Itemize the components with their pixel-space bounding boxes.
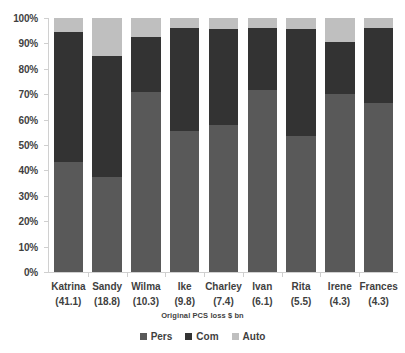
x-axis-title: Original PCS loss $ bn <box>0 311 405 320</box>
bar-segment-auto[interactable] <box>170 18 199 28</box>
stacked-bar-chart: 0%10%20%30%40%50%60%70%80%90%100% Katrin… <box>0 0 405 353</box>
x-axis-tick-mark <box>282 272 283 277</box>
y-axis-tick-label: 100% <box>13 13 38 24</box>
chart-legend: PersComAuto <box>0 331 405 342</box>
category-name: Charley <box>204 279 243 294</box>
bar-segment-auto[interactable] <box>131 18 160 37</box>
stacked-bar[interactable] <box>170 18 199 272</box>
bar-segment-pers[interactable] <box>364 103 393 272</box>
x-axis-category-label: Irene(4.3) <box>320 279 359 309</box>
bar-segment-auto[interactable] <box>286 18 315 29</box>
stacked-bar[interactable] <box>364 18 393 272</box>
category-value: (4.3) <box>320 294 359 309</box>
y-axis-tick-label: 80% <box>19 63 38 74</box>
bar-slot <box>49 18 88 272</box>
bar-slot <box>127 18 166 272</box>
bar-slot <box>88 18 127 272</box>
category-value: (5.5) <box>282 294 321 309</box>
x-axis-tick-mark <box>243 272 244 277</box>
category-name: Sandy <box>88 279 127 294</box>
x-axis-category-label: Frances(4.3) <box>359 279 398 309</box>
x-axis-category-label: Rita(5.5) <box>282 279 321 309</box>
legend-label: Pers <box>151 331 173 342</box>
category-name: Wilma <box>127 279 166 294</box>
y-axis-tick-label: 0% <box>24 267 38 278</box>
bar-segment-auto[interactable] <box>92 18 121 56</box>
legend-swatch-icon <box>185 333 192 340</box>
y-axis-tick-label: 40% <box>19 165 38 176</box>
x-axis-category-label: Ivan(6.1) <box>243 279 282 309</box>
x-axis-tick-mark <box>127 272 128 277</box>
x-axis-line <box>48 272 398 273</box>
bar-slot <box>359 18 398 272</box>
y-axis-tick-label: 60% <box>19 114 38 125</box>
bar-segment-auto[interactable] <box>364 18 393 28</box>
bar-segment-com[interactable] <box>286 29 315 136</box>
bar-segment-com[interactable] <box>170 28 199 131</box>
bar-segment-pers[interactable] <box>286 136 315 272</box>
bar-segment-com[interactable] <box>131 37 160 92</box>
bar-segment-pers[interactable] <box>170 131 199 272</box>
x-axis-category-label: Wilma(10.3) <box>127 279 166 309</box>
x-axis-tick-mark <box>88 272 89 277</box>
legend-item-auto[interactable]: Auto <box>232 331 266 342</box>
bar-segment-auto[interactable] <box>325 18 354 42</box>
bar-segment-com[interactable] <box>92 56 121 177</box>
y-axis-tick-label: 50% <box>19 140 38 151</box>
category-name: Rita <box>282 279 321 294</box>
plot-area: 0%10%20%30%40%50%60%70%80%90%100% Katrin… <box>0 0 405 286</box>
legend-item-pers[interactable]: Pers <box>140 331 173 342</box>
bar-segment-pers[interactable] <box>54 162 83 272</box>
category-name: Katrina <box>49 279 88 294</box>
bar-segment-pers[interactable] <box>248 90 277 272</box>
legend-item-com[interactable]: Com <box>185 331 218 342</box>
category-name: Ike <box>165 279 204 294</box>
bar-segment-com[interactable] <box>248 28 277 90</box>
category-value: (4.3) <box>359 294 398 309</box>
category-value: (18.8) <box>88 294 127 309</box>
stacked-bar[interactable] <box>248 18 277 272</box>
y-axis-tick-labels: 0%10%20%30%40%50%60%70%80%90%100% <box>0 12 44 272</box>
bar-slot <box>320 18 359 272</box>
x-axis-tick-mark <box>320 272 321 277</box>
bar-segment-com[interactable] <box>54 32 83 162</box>
stacked-bar[interactable] <box>131 18 160 272</box>
category-value: (9.8) <box>165 294 204 309</box>
stacked-bar[interactable] <box>325 18 354 272</box>
y-axis-tick-label: 20% <box>19 216 38 227</box>
stacked-bar[interactable] <box>209 18 238 272</box>
x-axis-category-label: Katrina(41.1) <box>49 279 88 309</box>
x-axis-tick-mark <box>204 272 205 277</box>
category-value: (10.3) <box>127 294 166 309</box>
bar-segment-pers[interactable] <box>131 92 160 272</box>
bar-segment-auto[interactable] <box>248 18 277 28</box>
x-axis-category-label: Ike(9.8) <box>165 279 204 309</box>
legend-swatch-icon <box>232 333 239 340</box>
bar-slot <box>204 18 243 272</box>
category-name: Ivan <box>243 279 282 294</box>
category-name: Irene <box>320 279 359 294</box>
bar-slot <box>282 18 321 272</box>
x-axis-tick-mark <box>165 272 166 277</box>
stacked-bar[interactable] <box>54 18 83 272</box>
bar-slot <box>243 18 282 272</box>
stacked-bar[interactable] <box>286 18 315 272</box>
bar-segment-com[interactable] <box>209 29 238 124</box>
bar-segment-pers[interactable] <box>92 177 121 272</box>
y-axis-tick-label: 90% <box>19 38 38 49</box>
bar-segment-com[interactable] <box>325 42 354 94</box>
y-axis-tick-label: 70% <box>19 89 38 100</box>
bar-segment-pers[interactable] <box>325 94 354 272</box>
y-axis-tick-label: 10% <box>19 241 38 252</box>
bar-segment-com[interactable] <box>364 28 393 103</box>
category-value: (7.4) <box>204 294 243 309</box>
category-name: Frances <box>359 279 398 294</box>
bar-segment-pers[interactable] <box>209 125 238 272</box>
bars-container <box>49 18 398 272</box>
bar-segment-auto[interactable] <box>209 18 238 29</box>
bar-segment-auto[interactable] <box>54 18 83 32</box>
x-axis-category-label: Charley(7.4) <box>204 279 243 309</box>
legend-label: Auto <box>243 331 266 342</box>
stacked-bar[interactable] <box>92 18 121 272</box>
legend-label: Com <box>196 331 218 342</box>
